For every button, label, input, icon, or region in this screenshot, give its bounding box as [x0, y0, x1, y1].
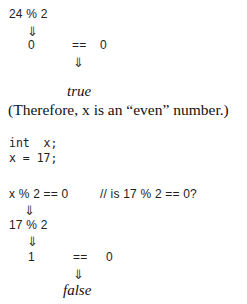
down-arrow-icon: ⇓ — [27, 235, 38, 248]
expression-17-mod-2: 17 % 2 — [9, 218, 48, 232]
expression-24-mod-2: 24 % 2 — [9, 7, 48, 21]
outcome-false: false — [63, 282, 91, 299]
result-right: 0 — [106, 250, 113, 264]
down-arrow-icon: ⇓ — [27, 25, 38, 38]
result-right: 0 — [100, 38, 107, 52]
down-arrow-icon: ⇓ — [73, 268, 84, 281]
outcome-true: true — [67, 83, 91, 100]
equality-operator: == — [73, 250, 87, 264]
result-left: 1 — [28, 250, 35, 264]
code-assignment: x = 17; — [9, 151, 57, 165]
explanation-note: (Therefore, x is an “even” number.) — [8, 101, 229, 119]
down-arrow-icon: ⇓ — [24, 204, 35, 217]
code-declaration: int x; — [9, 136, 57, 150]
code-comment: // is 17 % 2 == 0? — [100, 187, 197, 201]
down-arrow-icon: ⇓ — [73, 56, 84, 69]
equality-operator: == — [72, 38, 86, 52]
expression-x-mod-2: x % 2 == 0 — [9, 187, 68, 201]
result-left: 0 — [28, 38, 35, 52]
